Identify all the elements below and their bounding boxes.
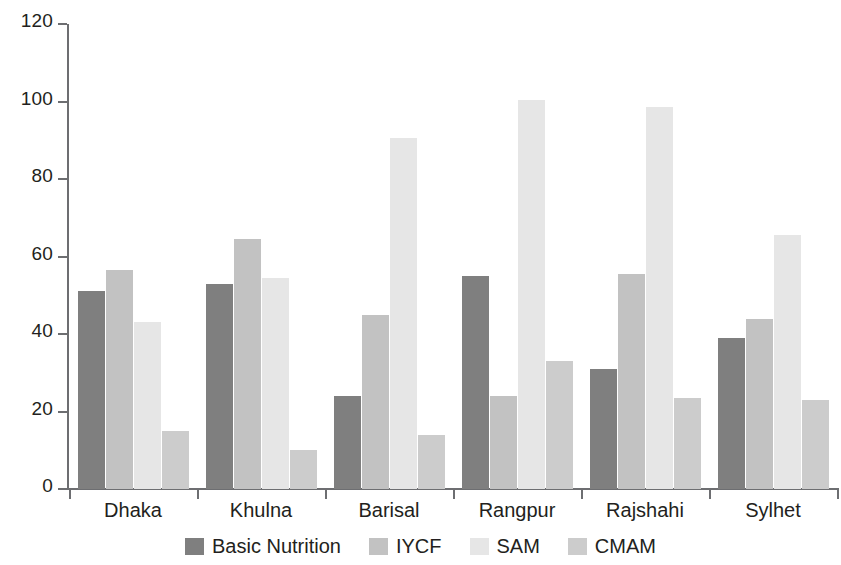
y-axis-tick-mark: [58, 411, 67, 413]
bar: [674, 398, 701, 489]
legend-swatch-icon: [185, 538, 204, 555]
y-axis-tick-label: 60: [31, 244, 53, 263]
bar: [162, 431, 189, 489]
legend-label: IYCF: [396, 535, 442, 557]
legend-item: Basic Nutrition: [185, 535, 341, 557]
y-axis-tick-mark: [58, 333, 67, 335]
bar-group: [453, 24, 581, 489]
y-axis-tick-label: 20: [31, 399, 53, 418]
y-axis-tick-mark: [58, 178, 67, 180]
bar: [418, 435, 445, 489]
x-axis-tick-mark: [837, 488, 839, 499]
bars-layer: [69, 24, 837, 489]
y-axis-tick-mark: [58, 488, 67, 490]
y-axis-tick-label: 120: [21, 11, 53, 30]
bar: [106, 270, 133, 489]
x-axis-label: Rajshahi: [581, 497, 709, 523]
bar: [590, 369, 617, 489]
bar: [774, 235, 801, 489]
bar-group: [69, 24, 197, 489]
x-axis-label: Barisal: [325, 497, 453, 523]
bar: [262, 278, 289, 489]
y-axis-tick-label: 100: [21, 89, 53, 108]
bar-group: [709, 24, 837, 489]
bar-group: [581, 24, 709, 489]
chart-legend: Basic NutritionIYCFSAMCMAM: [0, 535, 841, 557]
bar: [390, 138, 417, 489]
legend-label: CMAM: [595, 535, 656, 557]
bar: [518, 100, 545, 489]
x-axis-label: Sylhet: [709, 497, 837, 523]
bar: [78, 291, 105, 489]
legend-item: CMAM: [568, 535, 656, 557]
bar: [134, 322, 161, 489]
x-axis-labels: DhakaKhulnaBarisalRangpurRajshahiSylhet: [69, 497, 837, 527]
legend-swatch-icon: [470, 538, 489, 555]
legend-item: SAM: [470, 535, 540, 557]
bar: [206, 284, 233, 489]
legend-swatch-icon: [568, 538, 587, 555]
bar: [718, 338, 745, 489]
y-axis-tick-label: 80: [31, 166, 53, 185]
bar: [234, 239, 261, 489]
y-axis-tick-mark: [58, 101, 67, 103]
bar-group: [197, 24, 325, 489]
y-axis-tick-label: 0: [42, 476, 53, 495]
y-axis-tick-mark: [58, 256, 67, 258]
bar: [546, 361, 573, 489]
x-axis-label: Khulna: [197, 497, 325, 523]
y-axis-tick-label: 40: [31, 321, 53, 340]
bar: [290, 450, 317, 489]
bar-chart: 020406080100120 DhakaKhulnaBarisalRangpu…: [0, 0, 841, 565]
bar: [802, 400, 829, 489]
legend-swatch-icon: [369, 538, 388, 555]
y-axis-tick-mark: [58, 23, 67, 25]
legend-item: IYCF: [369, 535, 442, 557]
bar: [618, 274, 645, 489]
bar: [646, 107, 673, 489]
bar-group: [325, 24, 453, 489]
legend-label: Basic Nutrition: [212, 535, 341, 557]
bar: [746, 319, 773, 490]
x-axis-label: Rangpur: [453, 497, 581, 523]
bar: [462, 276, 489, 489]
x-axis-label: Dhaka: [69, 497, 197, 523]
bar: [334, 396, 361, 489]
legend-label: SAM: [497, 535, 540, 557]
bar: [362, 315, 389, 489]
bar: [490, 396, 517, 489]
